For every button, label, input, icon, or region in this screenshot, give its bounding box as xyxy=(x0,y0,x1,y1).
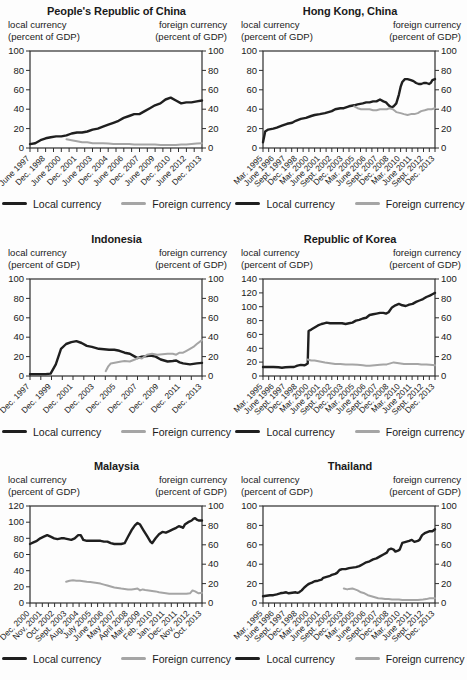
left-axis-tick-label: 100 xyxy=(8,45,24,56)
right-axis-tick-label: 40 xyxy=(441,331,452,342)
left-axis-caption-line2: (percent of GDP) xyxy=(241,486,313,498)
left-axis-tick-label: 80 xyxy=(13,64,24,75)
left-axis-tick-label: 60 xyxy=(13,84,24,95)
chart-legend: Local currency Foreign currency xyxy=(233,426,467,438)
right-axis-tick-label: 60 xyxy=(441,312,452,323)
chart-title: Thailand xyxy=(233,460,467,472)
chart-title: Indonesia xyxy=(0,233,233,245)
left-axis-caption-line1: local currency xyxy=(241,247,313,259)
right-axis-tick-label: 60 xyxy=(208,84,219,95)
right-axis-tick-label: 60 xyxy=(441,84,452,95)
right-axis-tick-label: 0 xyxy=(441,370,446,381)
left-axis-tick-label: 80 xyxy=(246,314,257,325)
right-axis-caption-line2: (percent of GDP) xyxy=(389,486,461,498)
right-axis-tick-label: 40 xyxy=(208,103,219,114)
foreign-currency-line-swatch xyxy=(121,202,146,205)
local-currency-line-swatch xyxy=(235,430,260,433)
local-currency-line xyxy=(263,529,435,596)
local-currency-line-swatch xyxy=(235,202,260,205)
left-axis-tick-label: 80 xyxy=(246,64,257,75)
left-axis-tick-label: 0 xyxy=(19,597,24,608)
right-axis-tick-label: 0 xyxy=(441,142,446,153)
chart-legend: Local currency Foreign currency xyxy=(233,653,467,665)
left-axis-tick-label: 20 xyxy=(246,356,257,367)
foreign-currency-line-swatch xyxy=(355,430,380,433)
left-axis-caption-line1: local currency xyxy=(8,19,80,31)
foreign-currency-legend-label: Foreign currency xyxy=(386,198,465,210)
chart-legend: Local currency Foreign currency xyxy=(0,653,233,665)
right-axis-tick-label: 60 xyxy=(208,312,219,323)
chart-title: Republic of Korea xyxy=(233,233,467,245)
foreign-currency-legend-label: Foreign currency xyxy=(152,198,231,210)
right-axis-tick-label: 60 xyxy=(208,539,219,550)
right-axis-tick-label: 80 xyxy=(208,64,219,75)
local-currency-legend-label: Local currency xyxy=(33,198,101,210)
right-axis-tick-label: 20 xyxy=(441,350,452,361)
left-axis-tick-label: 60 xyxy=(246,84,257,95)
right-axis-caption: foreign currency (percent of GDP) xyxy=(155,247,227,272)
left-axis-tick-label: 120 xyxy=(8,500,24,511)
chart-legend: Local currency Foreign currency xyxy=(0,426,233,438)
left-axis-tick-label: 40 xyxy=(13,565,24,576)
chart-title: Malaysia xyxy=(0,460,233,472)
line-chart: 020406080100020406080100June 1997Dec. 19… xyxy=(0,45,233,197)
left-axis-tick-label: 20 xyxy=(246,122,257,133)
left-axis-tick-label: 40 xyxy=(13,331,24,342)
local-currency-legend-label: Local currency xyxy=(33,426,101,438)
right-axis-caption-line1: foreign currency xyxy=(155,247,227,259)
foreign-currency-legend-label: Foreign currency xyxy=(386,426,465,438)
axis-captions: local currency (percent of GDP) foreign … xyxy=(233,474,467,500)
left-axis-tick-label: 0 xyxy=(252,370,257,381)
line-chart: 020406080100020406080100Mar. 1995June 19… xyxy=(233,45,466,197)
chart-panel: Hong Kong, China local currency (percent… xyxy=(233,0,467,228)
foreign-currency-line xyxy=(67,139,203,145)
local-currency-line xyxy=(263,79,435,142)
left-axis-caption-line1: local currency xyxy=(8,247,80,259)
left-axis-tick-label: 20 xyxy=(13,122,24,133)
right-axis-tick-label: 0 xyxy=(208,597,213,608)
local-currency-legend-label: Local currency xyxy=(266,198,334,210)
right-axis-tick-label: 40 xyxy=(441,103,452,114)
right-axis-tick-label: 100 xyxy=(208,273,224,284)
right-axis-caption: foreign currency (percent of GDP) xyxy=(389,19,461,44)
line-chart: 020406080100020406080100Mar. 1995June 19… xyxy=(233,500,466,652)
line-chart: 020406080100120020406080100Dec. 2000Nov.… xyxy=(0,500,233,652)
right-axis-tick-label: 100 xyxy=(441,500,457,511)
left-axis-caption-line2: (percent of GDP) xyxy=(241,31,313,43)
local-currency-line xyxy=(30,518,202,544)
local-currency-legend-label: Local currency xyxy=(266,653,334,665)
local-currency-line xyxy=(263,293,435,368)
left-axis-caption-line2: (percent of GDP) xyxy=(8,486,80,498)
local-currency-legend-label: Local currency xyxy=(266,426,334,438)
chart-panel: Thailand local currency (percent of GDP)… xyxy=(233,455,467,680)
foreign-currency-line-swatch xyxy=(355,657,380,660)
left-axis-caption-line2: (percent of GDP) xyxy=(241,259,313,271)
line-chart: 020406080100120140020406080100Mar. 1995J… xyxy=(233,273,466,425)
right-axis-tick-label: 20 xyxy=(208,350,219,361)
chart-panel: Malaysia local currency (percent of GDP)… xyxy=(0,455,233,680)
right-axis-caption-line1: foreign currency xyxy=(389,19,461,31)
left-axis-caption-line2: (percent of GDP) xyxy=(8,31,80,43)
left-axis-tick-label: 120 xyxy=(241,287,257,298)
chart-panel: Republic of Korea local currency (percen… xyxy=(233,228,467,455)
foreign-currency-line-swatch xyxy=(121,430,146,433)
left-axis-tick-label: 60 xyxy=(13,548,24,559)
left-axis-tick-label: 80 xyxy=(246,519,257,530)
foreign-currency-legend-label: Foreign currency xyxy=(386,653,465,665)
left-axis-caption-line1: local currency xyxy=(8,474,80,486)
left-axis-tick-label: 100 xyxy=(8,516,24,527)
axis-captions: local currency (percent of GDP) foreign … xyxy=(0,19,233,45)
left-axis-tick-label: 20 xyxy=(246,577,257,588)
left-axis-caption-line2: (percent of GDP) xyxy=(8,259,80,271)
chart-panel: People's Republic of China local currenc… xyxy=(0,0,233,228)
left-axis-tick-label: 100 xyxy=(241,45,257,56)
right-axis-tick-label: 40 xyxy=(208,558,219,569)
foreign-currency-line xyxy=(344,588,435,600)
left-axis-tick-label: 60 xyxy=(246,328,257,339)
right-axis-tick-label: 80 xyxy=(208,519,219,530)
axis-captions: local currency (percent of GDP) foreign … xyxy=(0,474,233,500)
left-axis-caption: local currency (percent of GDP) xyxy=(241,474,313,499)
left-axis-caption: local currency (percent of GDP) xyxy=(8,19,80,44)
right-axis-tick-label: 0 xyxy=(208,142,213,153)
right-axis-caption-line1: foreign currency xyxy=(155,474,227,486)
